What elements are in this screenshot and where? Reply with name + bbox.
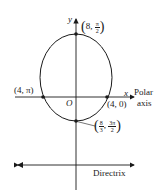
- point-left-label: (4, π): [14, 86, 34, 95]
- y-axis-label: y: [68, 15, 72, 24]
- directrix-label: Directrix: [93, 169, 125, 178]
- x-axis-label: x: [124, 89, 128, 98]
- point-left: [41, 95, 45, 99]
- point-bottom-theta: 3π2: [108, 120, 116, 133]
- point-top-label: (8, π2): [81, 20, 104, 34]
- point-bottom: [74, 119, 78, 123]
- directrix-left-arrow-icon: [17, 162, 23, 168]
- point-top: [74, 32, 78, 36]
- origin-label: O: [66, 99, 73, 108]
- point-right-label: (4, 0): [107, 100, 127, 109]
- point-bottom-r: 83: [99, 120, 104, 133]
- bottom-leader-line: [77, 122, 95, 127]
- polar-axis-label-line1: Polar: [134, 88, 153, 97]
- polar-axis-label-line2: axis: [137, 99, 152, 108]
- point-top-r: 8: [86, 21, 91, 31]
- point-bottom-label: (83, 3π2): [94, 119, 121, 133]
